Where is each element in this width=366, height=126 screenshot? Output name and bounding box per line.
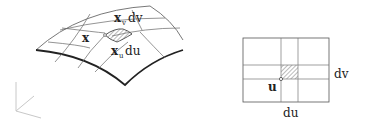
diagram-canvas: x x v dv x u du u dv du bbox=[0, 0, 366, 126]
surface-grid-line bbox=[140, 32, 165, 58]
label-du: du bbox=[283, 106, 299, 120]
surface-area-element bbox=[105, 29, 132, 42]
parameter-point bbox=[279, 77, 282, 80]
svg-text:dv: dv bbox=[128, 11, 143, 25]
svg-text:u: u bbox=[119, 52, 124, 60]
axes-icon bbox=[16, 82, 41, 118]
label-x: x bbox=[82, 31, 90, 45]
surface-back-edge bbox=[36, 6, 183, 50]
svg-text:x: x bbox=[111, 44, 119, 58]
label-u: u bbox=[268, 80, 277, 94]
parameter-grid: u dv du bbox=[243, 38, 349, 120]
svg-text:x: x bbox=[114, 11, 122, 25]
surface-patch: x x v dv x u du bbox=[36, 6, 183, 85]
label-dv: dv bbox=[334, 67, 349, 81]
svg-text:du: du bbox=[125, 44, 141, 58]
parameter-area-element bbox=[281, 65, 298, 79]
label-xv-dv: x v dv bbox=[114, 11, 143, 27]
surface-front-edge bbox=[36, 50, 183, 85]
label-xu-du: x u du bbox=[111, 44, 141, 60]
surface-point bbox=[104, 34, 107, 37]
svg-text:v: v bbox=[121, 19, 126, 27]
